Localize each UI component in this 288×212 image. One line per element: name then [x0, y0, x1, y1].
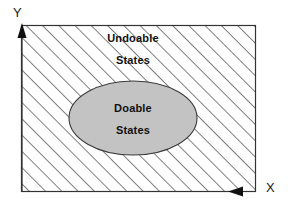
region-doable [69, 81, 197, 155]
doable-label-text-1: Doable [114, 103, 152, 114]
undoable-region-label-line2: States [0, 55, 288, 66]
undoable-label-text-1: Undoable [107, 33, 159, 44]
x-axis-label: X [266, 181, 275, 194]
doable-region-label-line1: Doable [0, 103, 288, 114]
doable-region-ellipse [69, 81, 197, 155]
undoable-label-text-2: States [116, 55, 150, 66]
doable-label-text-2: States [116, 125, 150, 136]
doable-region-label-line2: States [0, 125, 288, 136]
diagram-canvas: Y X Undoable States Doable States [0, 0, 288, 212]
y-axis-label: Y [13, 6, 22, 19]
undoable-region-label-line1: Undoable [0, 33, 288, 44]
